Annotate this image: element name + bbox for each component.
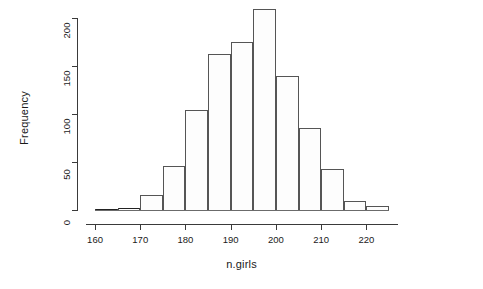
x-axis-line	[86, 224, 398, 225]
histogram-plot: 050100150200 Frequency 16017018019020021…	[0, 0, 483, 289]
x-axis-tick	[366, 224, 367, 230]
x-axis-tick	[321, 224, 322, 230]
x-axis-tick	[95, 224, 96, 230]
x-axis-tick	[185, 224, 186, 230]
histogram-bar	[299, 128, 322, 210]
histogram-bar	[344, 201, 367, 210]
histogram-bar	[276, 76, 299, 210]
bars-baseline	[95, 210, 389, 211]
histogram-bar	[321, 169, 344, 210]
histogram-bar	[253, 9, 276, 210]
histogram-bar	[208, 54, 231, 210]
histogram-bar	[185, 110, 208, 210]
x-axis-tick-label: 190	[214, 234, 248, 245]
x-axis-tick-label: 180	[168, 234, 202, 245]
x-axis-tick-label: 160	[78, 234, 112, 245]
x-axis-tick-label: 220	[349, 234, 383, 245]
histogram-bar	[163, 166, 186, 210]
x-axis-title: n.girls	[0, 258, 483, 270]
x-axis-tick	[231, 224, 232, 230]
x-axis-tick	[140, 224, 141, 230]
histogram-bar	[140, 195, 163, 210]
x-axis-tick-label: 210	[304, 234, 338, 245]
x-axis-tick	[276, 224, 277, 230]
histogram-bar	[231, 42, 254, 210]
x-axis-tick-label: 170	[123, 234, 157, 245]
histogram-bars	[0, 0, 483, 289]
x-axis-tick-label: 200	[259, 234, 293, 245]
